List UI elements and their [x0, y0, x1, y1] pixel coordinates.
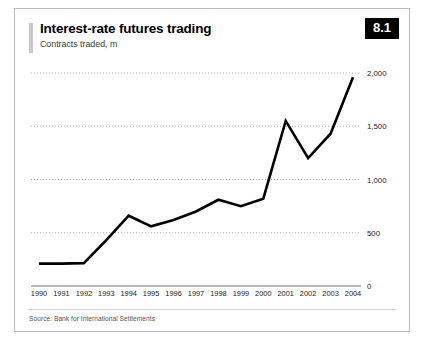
title-block: Interest-rate futures trading Contracts …	[29, 21, 349, 50]
x-tick-label: 1996	[165, 289, 181, 298]
source-note: Source: Bank for International Settlemen…	[29, 315, 155, 322]
x-tick-label: 1992	[76, 289, 92, 298]
x-tick-label: 1994	[120, 289, 136, 298]
plot-area	[31, 57, 361, 287]
x-tick-label: 1995	[143, 289, 159, 298]
chart-title: Interest-rate futures trading	[40, 21, 349, 37]
x-tick-label: 2001	[277, 289, 293, 298]
y-tick-label: 1,500	[367, 122, 387, 131]
data-series-line	[39, 77, 353, 263]
y-tick-label: 1,000	[367, 175, 387, 184]
x-tick-label: 1991	[53, 289, 69, 298]
x-tick-label: 1998	[210, 289, 226, 298]
x-tick-label: 1997	[188, 289, 204, 298]
x-tick-label: 2003	[322, 289, 338, 298]
x-axis-labels: 1990199119921993199419951996199719981999…	[31, 289, 365, 303]
y-tick-label: 2,000	[367, 69, 387, 78]
y-axis-labels: 05001,0001,5002,000	[367, 57, 411, 297]
data-series-group	[39, 77, 353, 263]
x-tick-label: 1990	[31, 289, 47, 298]
line-chart-svg	[31, 57, 361, 287]
x-tick-label: 2004	[345, 289, 361, 298]
x-tick-label: 1999	[233, 289, 249, 298]
x-tick-label: 2002	[300, 289, 316, 298]
source-divider	[28, 309, 396, 310]
chart-subtitle: Contracts traded, m	[40, 39, 349, 50]
y-tick-label: 0	[367, 282, 371, 291]
x-tick-label: 1993	[98, 289, 114, 298]
figure-number-badge: 8.1	[365, 18, 399, 39]
figure-card: Interest-rate futures trading Contracts …	[14, 8, 410, 332]
y-tick-label: 500	[367, 228, 380, 237]
title-accent-bar	[29, 23, 33, 53]
x-tick-label: 2000	[255, 289, 271, 298]
